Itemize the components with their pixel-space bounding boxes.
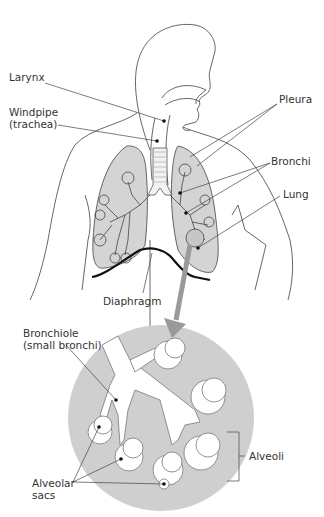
label-alveoli: Alveoli [249, 450, 284, 462]
diagram-artwork [0, 0, 324, 517]
label-bronchiole-line2: (small bronchi) [23, 339, 102, 351]
label-windpipe-line2: (trachea) [9, 118, 58, 130]
label-bronchi: Bronchi [271, 155, 311, 167]
label-larynx: Larynx [9, 71, 45, 83]
label-bronchiole-line1: Bronchiole [23, 327, 102, 339]
label-lung: Lung [283, 188, 309, 200]
respiratory-diagram: Larynx Windpipe (trachea) Pleura Bronchi… [0, 0, 324, 517]
label-alveolar-line1: Alveolar [32, 477, 75, 489]
label-diaphragm: Diaphragm [103, 295, 161, 307]
right-lung [171, 146, 218, 272]
label-alveolar-sacs: Alveolar sacs [32, 477, 75, 501]
magnify-arrow [164, 245, 190, 338]
label-windpipe: Windpipe (trachea) [9, 106, 58, 130]
label-windpipe-line1: Windpipe [9, 106, 58, 118]
label-alveolar-line2: sacs [32, 489, 75, 501]
label-bronchiole: Bronchiole (small bronchi) [23, 327, 102, 351]
label-pleura: Pleura [279, 93, 312, 105]
